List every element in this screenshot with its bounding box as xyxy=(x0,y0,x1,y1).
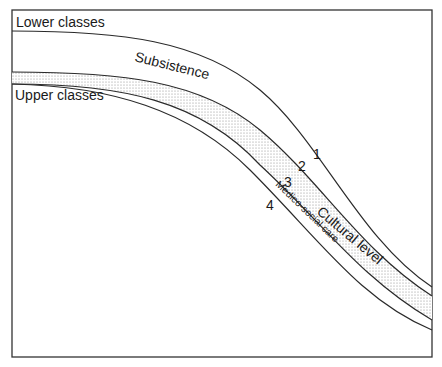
curve-number-2: 2 xyxy=(298,158,306,174)
curve-number-4: 4 xyxy=(266,197,274,213)
curve-number-3: 3 xyxy=(284,174,292,190)
diagram-frame xyxy=(12,10,432,357)
diagram-canvas: Lower classes Upper classes Subsistence … xyxy=(0,0,442,367)
cultural-level-band xyxy=(12,72,432,320)
label-lower-classes: Lower classes xyxy=(16,14,105,30)
label-subsistence: Subsistence xyxy=(133,48,211,82)
label-upper-classes: Upper classes xyxy=(15,87,104,103)
curve-number-1: 1 xyxy=(313,146,321,162)
